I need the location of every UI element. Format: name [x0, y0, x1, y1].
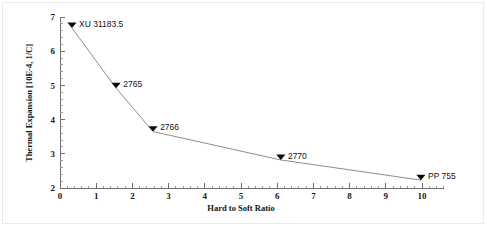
y-tick-label: 7	[51, 12, 56, 22]
y-axis-title: Thermal Expansion [10E-4, 1/C]	[24, 44, 34, 162]
x-tick-label: 2	[130, 191, 135, 201]
x-tick-label: 5	[239, 191, 244, 201]
x-tick-label: 6	[275, 191, 280, 201]
thermal-expansion-line-chart: 012345678910 234567 XU 31183.52765276627…	[0, 0, 487, 227]
x-tick-label: 10	[418, 191, 428, 201]
y-tick-label: 3	[51, 149, 56, 159]
y-tick-label: 4	[51, 115, 56, 125]
x-tick-label: 4	[203, 191, 208, 201]
x-tick-label: 3	[166, 191, 171, 201]
data-point-marker	[67, 23, 76, 28]
x-axis-title: Hard to Soft Ratio	[207, 203, 274, 213]
y-tick-labels: 234567	[51, 12, 56, 193]
data-point-label: XU 31183.5	[79, 19, 124, 29]
chart-page: 012345678910 234567 XU 31183.52765276627…	[0, 0, 487, 227]
data-point-marker	[112, 83, 121, 88]
data-point-label: 2770	[288, 151, 307, 161]
x-tick-label: 1	[94, 191, 99, 201]
data-point-marker	[148, 126, 157, 131]
x-tick-label: 8	[347, 191, 352, 201]
y-tick-label: 2	[51, 183, 56, 193]
series-polyline	[72, 28, 421, 180]
data-point-label: PP 755	[428, 171, 456, 181]
x-tick-label: 9	[384, 191, 389, 201]
data-point-label: 2765	[123, 79, 142, 89]
x-tick-labels: 012345678910	[58, 191, 427, 201]
y-tick-label: 5	[51, 81, 56, 91]
y-tick-label: 6	[51, 46, 56, 56]
data-series-line	[72, 28, 421, 180]
data-point-label: 2766	[160, 122, 179, 132]
tick-marks	[60, 17, 444, 188]
axes	[60, 17, 444, 188]
x-tick-label: 0	[58, 191, 63, 201]
data-point-markers	[67, 23, 425, 181]
x-tick-label: 7	[311, 191, 316, 201]
